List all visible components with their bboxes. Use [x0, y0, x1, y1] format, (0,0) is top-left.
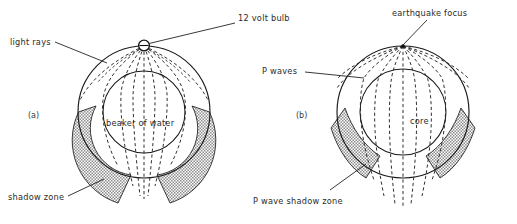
label-shadow-zone: shadow zone — [8, 192, 64, 202]
label-beaker-of-water: beaker of water — [106, 118, 175, 128]
leader-bulb-a — [149, 23, 235, 44]
figure-root: 12 volt bulb light rays shadow zone beak… — [0, 0, 517, 224]
leader-shadow-b — [330, 164, 366, 190]
leader-rays-a — [55, 42, 107, 63]
leader-focus-b — [403, 20, 427, 45]
label-p-waves: P waves — [262, 66, 297, 76]
label-12-volt-bulb: 12 volt bulb — [238, 13, 290, 23]
panel-b: earthquake focus P waves P wave shadow z… — [253, 8, 475, 206]
label-p-wave-shadow-zone: P wave shadow zone — [253, 196, 343, 206]
label-earthquake-focus: earthquake focus — [392, 8, 467, 18]
leader-pwaves-b — [305, 72, 364, 78]
panel-a: 12 volt bulb light rays shadow zone beak… — [8, 13, 290, 203]
label-core: core — [410, 116, 429, 126]
panel-label-a: (a) — [28, 111, 39, 120]
label-light-rays: light rays — [10, 37, 51, 47]
p-waves-b — [337, 46, 469, 206]
seismic-shadow-zone-figure: 12 volt bulb light rays shadow zone beak… — [0, 0, 517, 224]
panel-label-b: (b) — [296, 111, 307, 120]
lamp-icon — [139, 40, 150, 51]
